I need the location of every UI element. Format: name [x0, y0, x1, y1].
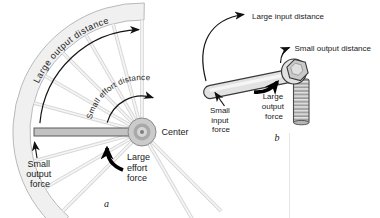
mechanical-advantage-figure: Large output distance Small effort dista… — [0, 0, 380, 218]
large-effort-force-label: Large effort force — [127, 152, 153, 183]
center-label: Center — [162, 127, 189, 137]
lever-bar — [34, 128, 142, 136]
wheel-hub — [128, 118, 156, 146]
large-input-distance-label: Large input distance — [252, 12, 325, 21]
small-input-force-label: Small input force — [210, 106, 232, 134]
small-output-distance-label: Small output distance — [295, 44, 372, 53]
small-output-force-label: Small output force — [26, 159, 54, 189]
caption-a: a — [104, 198, 109, 209]
bolt-shank — [294, 79, 310, 125]
caption-b: b — [275, 132, 280, 143]
figure-page: Large output distance Small effort dista… — [0, 0, 380, 218]
large-input-distance-leader-arrow — [203, 15, 244, 82]
wheel-diagram: Large output distance Small effort dista… — [13, 3, 221, 218]
large-output-force-label: Large output force — [262, 92, 286, 121]
small-output-force-arrow — [35, 142, 38, 158]
wrench-diagram: Large input distance Small output distan… — [203, 12, 372, 143]
